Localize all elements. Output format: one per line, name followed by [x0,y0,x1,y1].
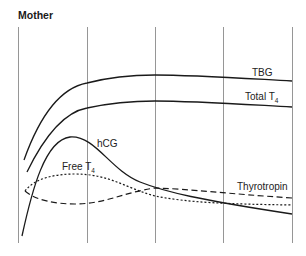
hcg-label: hCG [97,138,118,149]
gridlines [19,27,293,243]
total-t4-label: Total T4 [245,91,279,104]
thyrotropin-label: Thyrotropin [237,181,288,192]
hormone-chart: TBG Total T4 hCG Free T4 Thyrotropin [0,0,306,256]
free-t4-label: Free T4 [62,161,95,174]
tbg-curve [24,75,292,160]
tbg-label: TBG [252,67,273,78]
